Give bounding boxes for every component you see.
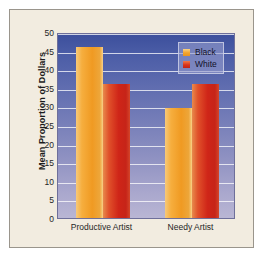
gridline xyxy=(58,34,234,35)
x-tick-label: Productive Artist xyxy=(71,222,132,232)
y-tick-label: 20 xyxy=(32,140,54,150)
legend: BlackWhite xyxy=(178,42,224,74)
legend-swatch-icon xyxy=(183,49,190,56)
y-tick-label: 45 xyxy=(32,47,54,57)
legend-item: Black xyxy=(183,46,217,58)
legend-swatch-icon xyxy=(183,61,190,68)
y-tick-label: 10 xyxy=(32,177,54,187)
chart-card: Mean Proportion of Dollars 0510152025303… xyxy=(9,9,254,248)
bar xyxy=(103,84,130,218)
y-tick-label: 15 xyxy=(32,158,54,168)
y-tick-label: 0 xyxy=(32,214,54,224)
x-tick-label: Needy Artist xyxy=(168,222,214,232)
bar xyxy=(76,47,103,218)
x-axis-tick-labels: Productive ArtistNeedy Artist xyxy=(57,222,235,238)
y-tick-label: 35 xyxy=(32,84,54,94)
y-tick-label: 25 xyxy=(32,121,54,131)
y-tick-label: 30 xyxy=(32,102,54,112)
legend-item: White xyxy=(183,58,217,70)
y-tick-label: 5 xyxy=(32,195,54,205)
y-axis-tick-labels: 05101520253035404550 xyxy=(32,33,54,219)
legend-item-label: Black xyxy=(195,47,216,57)
bar xyxy=(165,108,192,218)
bar xyxy=(192,84,219,218)
plot-area: BlackWhite xyxy=(57,33,235,219)
chart-figure: Mean Proportion of Dollars 0510152025303… xyxy=(0,0,265,259)
legend-item-label: White xyxy=(195,59,217,69)
y-tick-label: 40 xyxy=(32,65,54,75)
y-tick-label: 50 xyxy=(32,28,54,38)
